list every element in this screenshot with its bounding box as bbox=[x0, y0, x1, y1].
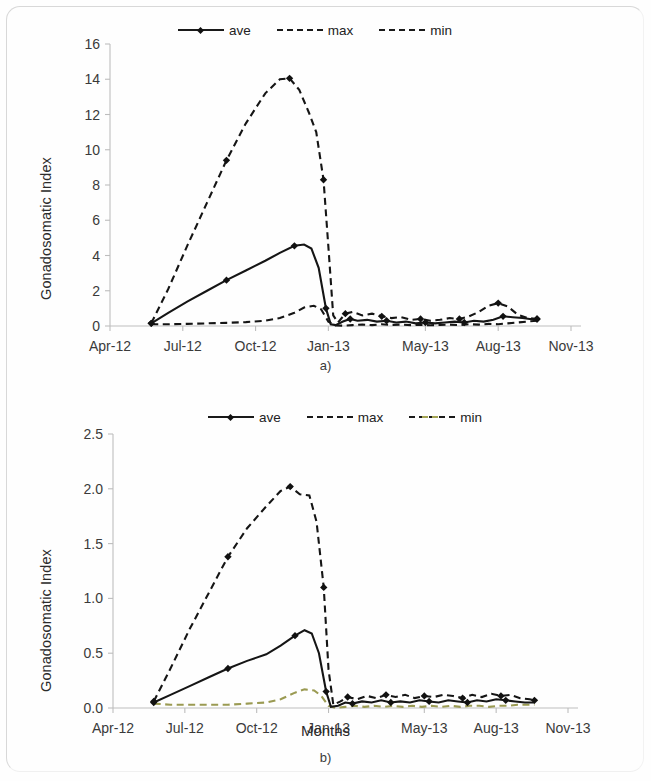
data-point-marker bbox=[342, 310, 349, 317]
data-point-marker bbox=[322, 688, 329, 695]
data-point-marker bbox=[502, 697, 509, 704]
x-axis-title-b: Months bbox=[0, 722, 651, 739]
y-tick-label: 0 bbox=[92, 318, 100, 334]
y-tick-label: 12 bbox=[84, 107, 100, 123]
data-point-marker bbox=[387, 699, 394, 706]
y-tick-label: 10 bbox=[84, 142, 100, 158]
panel-caption-b: b) bbox=[0, 750, 651, 765]
y-tick-label: 1.5 bbox=[84, 536, 104, 552]
data-point-marker bbox=[320, 176, 327, 183]
data-point-marker bbox=[320, 584, 327, 591]
series-line-max bbox=[154, 487, 535, 705]
data-point-marker bbox=[495, 299, 502, 306]
data-point-marker bbox=[499, 313, 506, 320]
data-point-marker bbox=[378, 313, 385, 320]
data-point-marker bbox=[291, 242, 298, 249]
data-point-marker bbox=[223, 157, 230, 164]
data-point-marker bbox=[347, 315, 354, 322]
data-point-marker bbox=[224, 665, 231, 672]
chart-panel-b: ave max min Gonadosomatic Index 0.00.51.… bbox=[0, 392, 651, 781]
panel-caption-a: a) bbox=[0, 358, 651, 373]
data-point-marker bbox=[150, 699, 157, 706]
y-tick-label: 6 bbox=[92, 212, 100, 228]
y-tick-label: 8 bbox=[92, 177, 100, 193]
x-tick-label: Oct-12 bbox=[235, 338, 277, 354]
x-tick-label: Aug-13 bbox=[476, 338, 521, 354]
plot-area-a: 0246810121416Apr-12Jul-12Oct-12Jan-13May… bbox=[0, 30, 651, 360]
y-tick-label: 4 bbox=[92, 248, 100, 264]
y-tick-label: 1.0 bbox=[84, 590, 104, 606]
series-line-min bbox=[154, 689, 535, 708]
data-point-marker bbox=[287, 483, 294, 490]
series-line-ave bbox=[154, 630, 535, 707]
plot-area-b: 0.00.51.01.52.02.5Apr-12Jul-12Oct-12Jan-… bbox=[0, 420, 651, 742]
y-tick-label: 14 bbox=[84, 71, 100, 87]
y-tick-label: 16 bbox=[84, 36, 100, 52]
y-tick-label: 0.5 bbox=[84, 645, 104, 661]
y-tick-label: 2.0 bbox=[84, 481, 104, 497]
data-point-marker bbox=[383, 317, 390, 324]
chart-panel-a: ave max min Gonadosomatic Index 02468101… bbox=[0, 0, 651, 392]
data-point-marker bbox=[425, 698, 432, 705]
data-point-marker bbox=[421, 692, 428, 699]
x-tick-label: Jul-12 bbox=[164, 338, 202, 354]
x-tick-label: Jan-13 bbox=[307, 338, 350, 354]
y-tick-label: 0.0 bbox=[84, 700, 104, 716]
x-tick-label: Nov-13 bbox=[548, 338, 593, 354]
data-point-marker bbox=[344, 693, 351, 700]
data-point-marker bbox=[382, 691, 389, 698]
x-tick-label: Apr-12 bbox=[89, 338, 131, 354]
series-line-max bbox=[151, 78, 537, 323]
data-point-marker bbox=[322, 305, 329, 312]
y-tick-label: 2.5 bbox=[84, 426, 104, 442]
y-tick-label: 2 bbox=[92, 283, 100, 299]
figure-page: ave max min Gonadosomatic Index 02468101… bbox=[0, 0, 651, 781]
x-tick-label: May-13 bbox=[402, 338, 449, 354]
